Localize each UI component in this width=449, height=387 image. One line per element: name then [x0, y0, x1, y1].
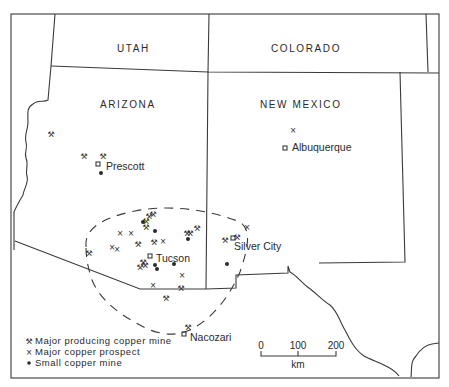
legend-label-small-mine: Small copper mine: [35, 357, 122, 368]
mine-icon: ⚒: [193, 224, 200, 233]
small-mine-icon: [153, 263, 157, 267]
map-frame: [11, 14, 439, 378]
state-label-colorado: COLORADO: [271, 43, 341, 54]
scale-tick-200: 200: [328, 340, 345, 351]
city-marker-tucson: [148, 254, 152, 258]
small-mine-icon: [172, 262, 176, 266]
copper-deposits-map: UTAH COLORADO ARIZONA NEW MEXICO Prescot…: [0, 0, 449, 387]
mine-icon: ⚒: [80, 152, 87, 161]
state-label-arizona: ARIZONA: [100, 99, 156, 110]
prospect-icon: ×: [179, 271, 186, 280]
city-label-nacozari: Nacozari: [190, 331, 231, 343]
prospect-icon: ×: [128, 229, 135, 238]
city-marker-albuquerque: [283, 146, 287, 150]
legend-label-prospect: Major copper prospect: [35, 346, 140, 357]
mine-icon: ⚒: [221, 236, 228, 245]
mine-icon: ⚒: [149, 210, 156, 219]
colorado-east-border: [426, 14, 428, 72]
legend-mine-icon: ⚒: [25, 337, 32, 346]
mine-icon: ⚒: [47, 130, 54, 139]
mine-icon: ⚒: [134, 240, 141, 249]
scale-bar: 0 100 200 km: [258, 340, 345, 370]
city-label-prescott: Prescott: [106, 160, 145, 172]
mine-icon: ⚒: [85, 249, 92, 258]
small-mine-icon: [155, 267, 159, 271]
prospect-icon: ×: [290, 126, 297, 135]
scale-tick-100: 100: [290, 340, 307, 351]
small-mine-icon: [141, 220, 145, 224]
mine-icon: ⚒: [186, 229, 193, 238]
legend: ⚒ Major producing copper mine × Major co…: [25, 335, 171, 368]
arizona-newmexico-border: [206, 14, 209, 289]
mine-icon: ⚒: [233, 233, 240, 242]
state-label-utah: UTAH: [117, 43, 150, 54]
texas-rio-grande: [411, 343, 439, 377]
copper-province-boundary: [86, 208, 248, 334]
legend-small-mine-icon: [27, 361, 31, 365]
scale-tick-0: 0: [258, 340, 264, 351]
prospect-icon: ×: [114, 245, 121, 254]
prospect-icon: ×: [244, 223, 251, 232]
prospect-icon: ×: [117, 229, 124, 238]
small-mine-icon: [99, 171, 103, 175]
city-label-silver-city: Silver City: [234, 240, 282, 252]
city-marker-prescott: [96, 162, 100, 166]
legend-label-major-mine: Major producing copper mine: [35, 335, 172, 346]
mine-icon: ⚒: [184, 323, 191, 332]
scale-unit: km: [291, 359, 304, 370]
state-label-newmexico: NEW MEXICO: [260, 99, 342, 110]
small-mine-icon: [153, 229, 157, 233]
mine-icon: ⚒: [162, 294, 169, 303]
small-mine-icon: [186, 237, 190, 241]
mine-icon: ⚒: [99, 152, 106, 161]
mine-icon: ⚒: [141, 261, 148, 270]
city-label-tucson: Tucson: [156, 252, 190, 264]
prospect-icon: ×: [150, 281, 157, 290]
mine-icon: ⚒: [177, 284, 184, 293]
prospect-icon: ×: [160, 237, 167, 246]
legend-prospect-icon: ×: [26, 348, 33, 357]
city-label-albuquerque: Albuquerque: [292, 141, 352, 153]
mine-icon: ⚒: [142, 223, 149, 232]
mine-icon: ⚒: [150, 238, 157, 247]
utah-arizona-border: [51, 66, 439, 73]
small-mine-icon: [225, 262, 229, 266]
